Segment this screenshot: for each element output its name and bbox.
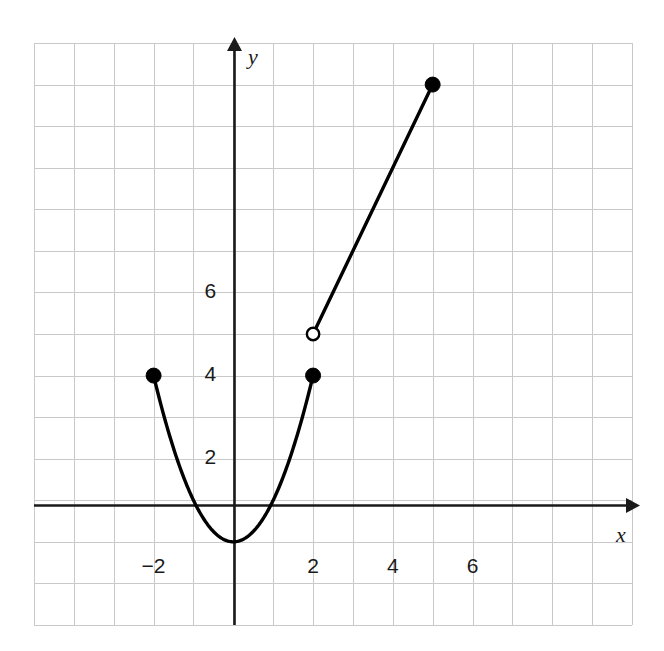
x-axis-label: x [615,522,626,547]
x-tick-label: 6 [467,554,479,577]
grid-lines [34,43,633,626]
y-tick-label: 4 [204,362,216,385]
function-curves [154,85,433,542]
x-tick-label: 2 [307,554,319,577]
endpoint-markers [146,77,440,383]
x-tick-label: 4 [387,554,399,577]
x-tick-labels: −2246 [142,554,479,577]
y-tick-labels: 246 [204,279,216,468]
x-tick-label: −2 [142,554,166,577]
marker-closed-endpoint-top [425,77,440,92]
piecewise-function-graph: −2246 246 y x [0,0,664,651]
graph-canvas: −2246 246 y x [0,0,664,651]
marker-closed-endpoint-right [306,368,321,383]
marker-open-endpoint [307,328,319,340]
y-tick-label: 2 [204,445,216,468]
axes [34,37,640,625]
marker-closed-endpoint-left [146,368,161,383]
y-tick-label: 6 [204,279,216,302]
y-axis-label: y [246,44,258,69]
